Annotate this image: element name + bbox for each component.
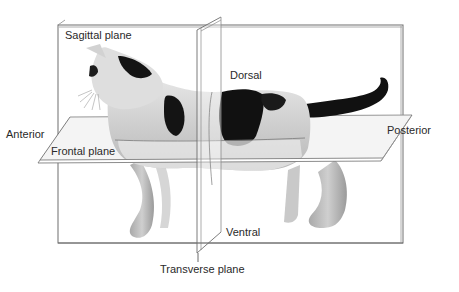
- body-planes-diagram: Sagittal plane Dorsal Anterior Posterior…: [0, 0, 459, 292]
- anterior-label: Anterior: [6, 129, 45, 140]
- transverse-plane-label: Transverse plane: [160, 264, 245, 275]
- sagittal-plane-label: Sagittal plane: [65, 30, 132, 41]
- dorsal-label: Dorsal: [230, 70, 262, 81]
- posterior-label: Posterior: [387, 125, 431, 136]
- ventral-label: Ventral: [226, 227, 260, 238]
- frontal-plane-label: Frontal plane: [51, 146, 115, 157]
- transverse-plane: [197, 17, 221, 262]
